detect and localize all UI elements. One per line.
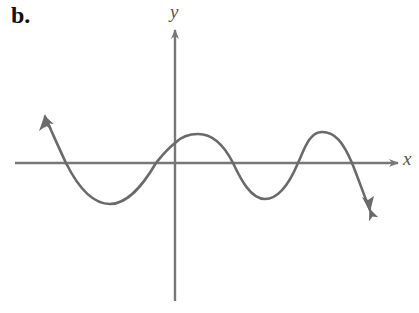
right-arrow-icon: [362, 196, 374, 212]
function-graph: [0, 0, 419, 313]
